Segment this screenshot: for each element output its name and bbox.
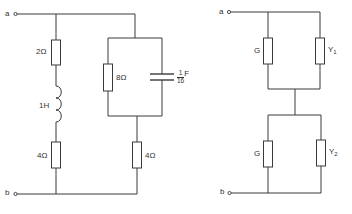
label-resistor-2ohm: 2Ω: [36, 48, 46, 56]
terminal-a-left: [14, 12, 17, 15]
inductor-1h: [56, 86, 61, 122]
label-inductor-1h: 1H: [39, 102, 49, 110]
capacitor-1-16f: [150, 74, 174, 80]
label-g-upper: G: [254, 47, 260, 55]
terminal-b-left: [14, 192, 17, 195]
terminal-a-right: [227, 10, 230, 13]
resistor-8ohm: [104, 64, 113, 91]
label-g-lower: G: [254, 150, 260, 158]
right-circuit: [227, 10, 325, 194]
label-resistor-4ohm-right: 4Ω: [145, 152, 155, 160]
left-circuit: [14, 12, 174, 195]
label-y1: Y1: [328, 46, 337, 54]
admittance-y2: [317, 140, 326, 166]
label-capacitor: 1 16 F: [177, 70, 189, 84]
conductance-g-upper: [264, 38, 273, 64]
admittance-y1: [316, 38, 325, 64]
label-resistor-4ohm-left: 4Ω: [37, 152, 47, 160]
terminal-b-right: [228, 191, 231, 194]
label-y2: Y2: [329, 148, 338, 156]
circuit-schematic: [0, 0, 352, 214]
circuit-diagram: a b 2Ω 1H 4Ω 8Ω 1 16 F 4Ω a b G Y1 G Y2: [0, 0, 352, 214]
label-terminal-b-right: b: [220, 188, 224, 196]
label-terminal-a-right: a: [219, 8, 223, 16]
resistor-4ohm-left: [52, 142, 61, 168]
label-terminal-a-left: a: [5, 10, 9, 18]
label-terminal-b-left: b: [5, 189, 9, 197]
resistor-2ohm: [52, 40, 61, 65]
conductance-g-lower: [264, 141, 273, 167]
resistor-4ohm-right: [133, 142, 142, 168]
label-resistor-8ohm: 8Ω: [116, 74, 126, 82]
